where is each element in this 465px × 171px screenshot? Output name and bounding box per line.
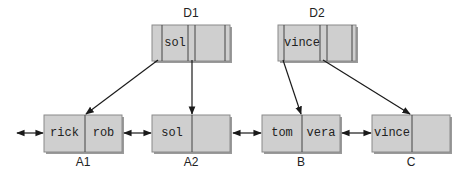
- leaf-key: tom: [262, 126, 302, 140]
- leaf-key: sol: [152, 126, 192, 140]
- leaf-key: rick: [44, 126, 85, 140]
- leaf-key: rob: [85, 126, 122, 140]
- leaf-key: vince: [372, 126, 412, 140]
- pointer-d2-to-c: [323, 60, 410, 114]
- node-label-b: B: [281, 155, 321, 169]
- node-label-d2: D2: [297, 6, 337, 20]
- pointer-d2-to-b: [283, 60, 301, 114]
- btree-diagram: [0, 0, 465, 171]
- node-label-d1: D1: [171, 6, 211, 20]
- node-label-a1: A1: [63, 155, 103, 169]
- leaf-key: vera: [302, 126, 340, 140]
- directory-key: vince: [284, 36, 320, 50]
- node-label-c: C: [391, 155, 431, 169]
- pointer-d1-to-a1: [86, 60, 158, 114]
- node-label-a2: A2: [171, 155, 211, 169]
- directory-key: sol: [162, 36, 188, 50]
